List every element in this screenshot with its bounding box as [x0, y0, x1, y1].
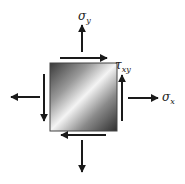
- label-tau-xy: τxy: [115, 58, 131, 74]
- stress-element-diagram: σy τxy σx: [0, 0, 185, 184]
- label-sigma-x: σx: [162, 90, 175, 106]
- label-sigma-y: σy: [78, 9, 91, 25]
- stress-element-square: [50, 63, 117, 131]
